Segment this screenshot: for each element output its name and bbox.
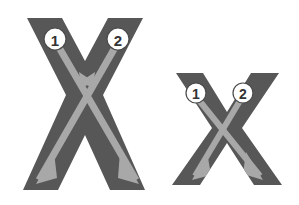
stroke-number-badge (233, 83, 253, 103)
lowercase-x-stroke-1-marker: 1 (186, 83, 206, 103)
figure-canvas: 1 2 (0, 0, 299, 205)
uppercase-x-stroke-2-marker: 2 (107, 28, 129, 50)
stroke-number-badge (107, 28, 129, 50)
lowercase-x-stroke-2-marker: 2 (233, 83, 253, 103)
uppercase-x-stroke-1-marker: 1 (44, 28, 66, 50)
stroke-number-badge (44, 28, 66, 50)
glyph-uppercase-x: 1 2 (23, 18, 145, 190)
stroke-order-figure: 1 2 (0, 0, 299, 205)
stroke-number-badge (186, 83, 206, 103)
glyph-lowercase-x: 1 2 (172, 73, 282, 185)
